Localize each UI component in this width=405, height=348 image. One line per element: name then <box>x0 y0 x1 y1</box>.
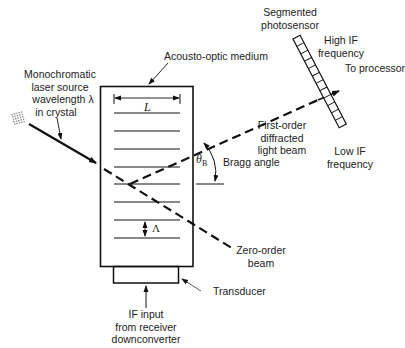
incident-beam <box>29 124 96 163</box>
transducer <box>114 267 179 284</box>
to-processor-label: To processor <box>345 62 405 75</box>
if-input-line-2: from receiver <box>110 321 182 334</box>
medium-label-pointer <box>149 63 168 84</box>
acousto-optic-medium-label: Acousto-optic medium <box>164 50 268 63</box>
high-if-line-1: High IF <box>316 34 366 47</box>
length-l-symbol: L <box>144 100 151 115</box>
laser-source-label: Monochromatic laser source wavelength λ … <box>24 68 96 118</box>
low-if-line-2: frequency <box>325 158 375 171</box>
bragg-angle-label: Bragg angle <box>223 156 280 169</box>
first-order-beam-label: First-order diffracted light beam <box>252 119 312 157</box>
transducer-label-pointer <box>182 279 201 291</box>
first-order-line-1: First-order <box>252 119 312 132</box>
laser-label-line-1: Monochromatic <box>24 68 96 81</box>
laser-label-line-4: in crystal <box>24 106 96 119</box>
if-input-line-3: downconverter <box>110 333 182 346</box>
laser-label-line-3: wavelength λ <box>24 93 96 106</box>
laser-label-line-2: laser source <box>24 81 96 94</box>
first-order-line-3: light beam <box>252 144 312 157</box>
photosensor-label-line-1: Segmented <box>255 6 325 19</box>
if-input-line-1: IF input <box>110 308 182 321</box>
laser-label-pointer <box>57 118 61 139</box>
zero-order-line-1: Zero-order <box>236 244 286 257</box>
low-if-line-1: Low IF <box>325 145 375 158</box>
photosensor-label-line-2: photosensor <box>255 19 325 32</box>
zero-order-beam-label: Zero-order beam <box>236 244 286 269</box>
if-input-label: IF input from receiver downconverter <box>110 308 182 346</box>
first-order-line-2: diffracted <box>252 132 312 145</box>
high-if-line-2: frequency <box>316 47 366 60</box>
high-if-label: High IF frequency <box>316 34 366 59</box>
transducer-label: Transducer <box>213 285 266 298</box>
zero-order-line-2: beam <box>236 257 286 270</box>
low-if-label: Low IF frequency <box>325 145 375 170</box>
grating-spacing-symbol: Λ <box>152 222 160 234</box>
theta-b-symbol: θB <box>196 152 207 168</box>
segmented-photosensor-label: Segmented photosensor <box>255 6 325 31</box>
